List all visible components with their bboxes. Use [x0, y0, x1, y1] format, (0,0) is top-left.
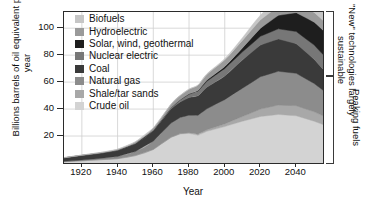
legend-swatch-icon — [75, 90, 84, 98]
legend-label: Coal — [89, 64, 110, 74]
y-tick-label: 80 — [20, 48, 54, 59]
legend-label: Solar, wind, geothermal — [89, 39, 194, 49]
y-tick-label: 100 — [20, 21, 54, 32]
y-tick-label: 20 — [20, 129, 54, 140]
legend-item: Coal — [75, 63, 194, 75]
legend-item: Natural gas — [75, 75, 194, 87]
legend-swatch-icon — [75, 77, 84, 85]
x-tick-label: 2040 — [275, 166, 315, 177]
legend-item: Nuclear electric — [75, 50, 194, 62]
top-bracket — [326, 11, 334, 77]
legend-swatch-icon — [75, 28, 84, 36]
legend-label: Shale/tar sands — [89, 89, 159, 99]
x-tick-label: 1920 — [61, 166, 101, 177]
x-tick-label: 2000 — [204, 166, 244, 177]
legend-label: Hydroelectric — [89, 27, 147, 37]
bottom-bracket-label: Peaking fuels — [340, 82, 362, 154]
x-tick-label: 2020 — [239, 166, 279, 177]
chart-legend: BiofuelsHydroelectricSolar, wind, geothe… — [75, 13, 194, 112]
legend-swatch-icon — [75, 15, 84, 23]
y-tick-label: 60 — [20, 75, 54, 86]
bottom-bracket — [326, 75, 334, 164]
legend-item: Shale/tar sands — [75, 87, 194, 99]
legend-item: Hydroelectric — [75, 25, 194, 37]
legend-item: Crude oil — [75, 100, 194, 112]
legend-item: Biofuels — [75, 13, 194, 25]
y-tick-label: 40 — [20, 102, 54, 113]
legend-swatch-icon — [75, 65, 84, 73]
x-tick-label: 1940 — [97, 166, 137, 177]
legend-swatch-icon — [75, 52, 84, 60]
legend-label: Crude oil — [89, 101, 129, 111]
legend-label: Natural gas — [89, 76, 140, 86]
x-tick-label: 1980 — [168, 166, 208, 177]
legend-item: Solar, wind, geothermal — [75, 38, 194, 50]
x-axis-label: Year — [63, 186, 323, 197]
x-tick-label: 1960 — [132, 166, 172, 177]
legend-swatch-icon — [75, 102, 84, 110]
chart-figure: Billions barrels of oil equivalent per y… — [0, 0, 371, 205]
legend-label: Nuclear electric — [89, 51, 158, 61]
legend-label: Biofuels — [89, 14, 125, 24]
legend-swatch-icon — [75, 40, 84, 48]
